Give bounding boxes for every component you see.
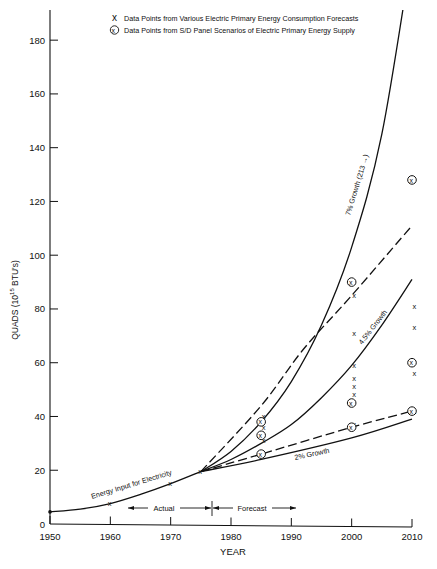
legend-x-marker: x (112, 12, 117, 23)
y-tick-label: 60 (34, 357, 45, 368)
forecast-label: Forecast (237, 504, 267, 513)
forecast-point-x: x (413, 302, 417, 311)
svg-text:x: x (259, 432, 263, 439)
panel-point-circled-x: x (347, 278, 356, 287)
y-tick-label: 0 (40, 519, 45, 530)
y-tick-label: 120 (29, 196, 45, 207)
y-axis-label: QUADS (1015 BTU's) (9, 260, 20, 340)
panel-point-circled-x: x (408, 176, 417, 185)
forecast-point-x: x (108, 499, 112, 508)
chart: 0204060801001201401601801950196019701980… (0, 0, 437, 569)
x-tick-label: 2000 (341, 531, 362, 542)
svg-text:x: x (112, 27, 116, 34)
svg-text:x: x (349, 400, 353, 407)
svg-text:QUADS (1015 BTU's): QUADS (1015 BTU's) (9, 260, 20, 340)
svg-text:x: x (259, 451, 263, 458)
forecast-point-x: x (168, 479, 172, 488)
forecast-point-x: x (198, 467, 202, 476)
label-energy-input: Energy Input for Electricity (90, 468, 173, 501)
svg-text:x: x (409, 359, 413, 366)
series-energy-input-for-electricity (50, 472, 201, 512)
series-lines (50, 0, 412, 512)
x-tick-label: 2010 (401, 531, 422, 542)
svg-text:x: x (409, 408, 413, 415)
start-point (48, 510, 52, 514)
x-tick-label: 1970 (160, 531, 181, 542)
legend-label-panel: Data Points from S/D Panel Scenarios of … (124, 26, 355, 35)
panel-point-circled-x: x (257, 418, 266, 427)
forecast-point-x: x (352, 390, 356, 399)
series-7-growth-213 (201, 0, 412, 472)
y-tick-label: 100 (29, 250, 45, 261)
x-tick-label: 1980 (220, 531, 241, 542)
y-tick-label: 80 (34, 303, 45, 314)
panel-point-circled-x: x (257, 450, 266, 459)
y-tick-label: 180 (29, 35, 45, 46)
actual-label: Actual (154, 504, 175, 513)
panel-point-circled-x: x (257, 431, 266, 440)
forecast-point-x: x (413, 323, 417, 332)
forecast-point-x: x (352, 361, 356, 370)
panel-point-circled-x: x (347, 423, 356, 432)
forecast-point-x: x (352, 291, 356, 300)
x-tick-label: 1990 (281, 531, 302, 542)
svg-text:x: x (259, 418, 263, 425)
y-tick-label: 160 (29, 88, 45, 99)
legend: x Data Points from Various Electric Prim… (110, 12, 358, 35)
label-7-growth: 7% Growth (213 →) (343, 153, 370, 216)
series-2-growth (201, 419, 412, 471)
svg-text:x: x (409, 177, 413, 184)
panel-point-circled-x: x (408, 358, 417, 367)
y-tick-label: 40 (34, 411, 45, 422)
panel-point-circled-x: x (408, 407, 417, 416)
label-45-growth: 4.5% Growth (356, 308, 389, 346)
series-lower-dashed-projection (201, 411, 412, 471)
legend-circled-x-marker: x (110, 26, 118, 34)
forecast-point-x: x (413, 369, 417, 378)
series-upper-dashed-projection (201, 226, 412, 472)
x-tick-label: 1950 (39, 531, 60, 542)
actual-forecast-annotation: Actual Forecast (128, 501, 296, 516)
y-tick-label: 140 (29, 142, 45, 153)
y-tick-label: 20 (34, 465, 45, 476)
panel-point-circled-x: x (347, 399, 356, 408)
forecast-point-x: x (352, 329, 356, 338)
svg-text:x: x (349, 424, 353, 431)
series-4-5-growth (201, 279, 412, 471)
svg-text:x: x (349, 279, 353, 286)
legend-label-forecasts: Data Points from Various Electric Primar… (124, 14, 359, 23)
x-tick-label: 1960 (100, 531, 121, 542)
x-axis-label: YEAR (220, 546, 246, 557)
